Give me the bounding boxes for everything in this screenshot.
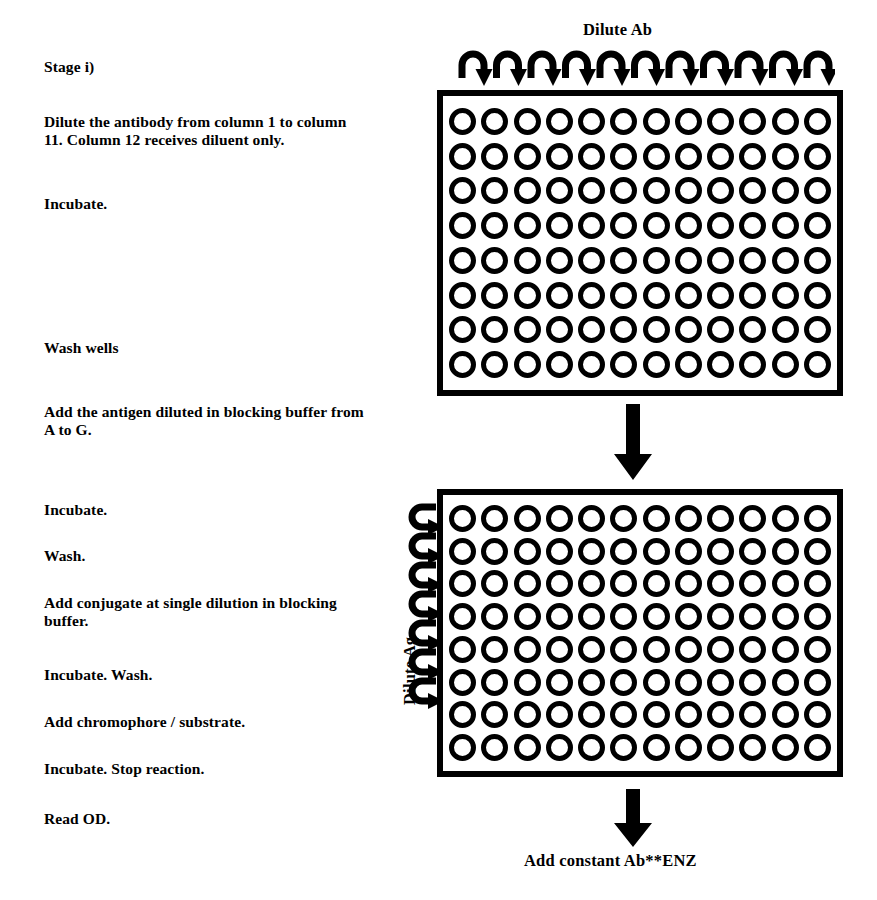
microplate-bottom-well[interactable] <box>449 538 476 565</box>
microplate-bottom-well[interactable] <box>546 570 573 597</box>
microplate-top-well[interactable] <box>739 212 766 239</box>
microplate-bottom-well[interactable] <box>449 669 476 696</box>
microplate-bottom-well[interactable] <box>481 701 508 728</box>
microplate-top-well[interactable] <box>481 247 508 274</box>
microplate-bottom-well[interactable] <box>739 603 766 630</box>
microplate-top-well[interactable] <box>514 177 541 204</box>
microplate-top-well[interactable] <box>546 316 573 343</box>
microplate-top-well[interactable] <box>481 282 508 309</box>
microplate-bottom-well[interactable] <box>449 603 476 630</box>
microplate-top-well[interactable] <box>707 143 734 170</box>
microplate-top-well[interactable] <box>804 282 831 309</box>
microplate-top-well[interactable] <box>449 282 476 309</box>
microplate-bottom-well[interactable] <box>707 636 734 663</box>
microplate-bottom-well[interactable] <box>675 669 702 696</box>
microplate-top-well[interactable] <box>707 108 734 135</box>
microplate-bottom-well[interactable] <box>546 734 573 761</box>
microplate-top-well[interactable] <box>675 316 702 343</box>
microplate-top-well[interactable] <box>481 351 508 378</box>
microplate-bottom-well[interactable] <box>449 570 476 597</box>
microplate-top-well[interactable] <box>578 143 605 170</box>
microplate-bottom-well[interactable] <box>804 570 831 597</box>
microplate-top-well[interactable] <box>514 143 541 170</box>
microplate-top-well[interactable] <box>546 247 573 274</box>
microplate-bottom-well[interactable] <box>578 669 605 696</box>
microplate-bottom-well[interactable] <box>514 734 541 761</box>
microplate-bottom-well[interactable] <box>514 570 541 597</box>
microplate-top-well[interactable] <box>578 108 605 135</box>
microplate-bottom-well[interactable] <box>610 538 637 565</box>
microplate-top-well[interactable] <box>546 108 573 135</box>
microplate-top-well[interactable] <box>610 351 637 378</box>
microplate-top-well[interactable] <box>449 108 476 135</box>
microplate-bottom-well[interactable] <box>804 603 831 630</box>
microplate-bottom-well[interactable] <box>514 636 541 663</box>
microplate-top-well[interactable] <box>449 316 476 343</box>
microplate-bottom-well[interactable] <box>546 538 573 565</box>
microplate-top-well[interactable] <box>675 177 702 204</box>
microplate-bottom-well[interactable] <box>707 603 734 630</box>
microplate-bottom-well[interactable] <box>739 505 766 532</box>
microplate-bottom-well[interactable] <box>675 505 702 532</box>
microplate-top-well[interactable] <box>514 282 541 309</box>
microplate-bottom-well[interactable] <box>772 734 799 761</box>
microplate-bottom-well[interactable] <box>707 570 734 597</box>
microplate-bottom-well[interactable] <box>481 603 508 630</box>
microplate-top-well[interactable] <box>707 212 734 239</box>
microplate-top-well[interactable] <box>739 247 766 274</box>
microplate-top-well[interactable] <box>514 212 541 239</box>
microplate-bottom-well[interactable] <box>739 734 766 761</box>
microplate-top-well[interactable] <box>643 351 670 378</box>
microplate-bottom-well[interactable] <box>804 734 831 761</box>
microplate-bottom-well[interactable] <box>578 603 605 630</box>
microplate-bottom-well[interactable] <box>546 603 573 630</box>
microplate-top-well[interactable] <box>707 316 734 343</box>
microplate-top-well[interactable] <box>707 177 734 204</box>
microplate-bottom-well[interactable] <box>804 505 831 532</box>
microplate-top-well[interactable] <box>804 177 831 204</box>
microplate-bottom-well[interactable] <box>643 603 670 630</box>
microplate-bottom-well[interactable] <box>514 603 541 630</box>
microplate-top-well[interactable] <box>578 212 605 239</box>
microplate-top-well[interactable] <box>643 212 670 239</box>
microplate-bottom-well[interactable] <box>610 570 637 597</box>
microplate-bottom-well[interactable] <box>739 701 766 728</box>
microplate-top-well[interactable] <box>578 282 605 309</box>
microplate-top-well[interactable] <box>772 143 799 170</box>
microplate-bottom-well[interactable] <box>546 636 573 663</box>
microplate-bottom-well[interactable] <box>804 538 831 565</box>
microplate-top-well[interactable] <box>514 247 541 274</box>
microplate-top-well[interactable] <box>804 247 831 274</box>
microplate-top-well[interactable] <box>772 351 799 378</box>
microplate-bottom-well[interactable] <box>481 505 508 532</box>
microplate-bottom-well[interactable] <box>675 734 702 761</box>
microplate-bottom-well[interactable] <box>610 636 637 663</box>
microplate-top-well[interactable] <box>804 108 831 135</box>
microplate-bottom-well[interactable] <box>707 538 734 565</box>
microplate-bottom-well[interactable] <box>675 603 702 630</box>
microplate-bottom-well[interactable] <box>675 636 702 663</box>
microplate-top-well[interactable] <box>449 177 476 204</box>
microplate-top-well[interactable] <box>449 247 476 274</box>
microplate-bottom-well[interactable] <box>772 636 799 663</box>
microplate-bottom-well[interactable] <box>514 701 541 728</box>
microplate-bottom-well[interactable] <box>578 538 605 565</box>
microplate-top-well[interactable] <box>675 351 702 378</box>
microplate-bottom-well[interactable] <box>804 701 831 728</box>
microplate-bottom-well[interactable] <box>772 603 799 630</box>
microplate-bottom-well[interactable] <box>481 570 508 597</box>
microplate-bottom-well[interactable] <box>772 505 799 532</box>
microplate-top-well[interactable] <box>707 351 734 378</box>
microplate-top-well[interactable] <box>546 282 573 309</box>
microplate-top-well[interactable] <box>610 247 637 274</box>
microplate-bottom-well[interactable] <box>643 505 670 532</box>
microplate-bottom-well[interactable] <box>578 505 605 532</box>
microplate-bottom-well[interactable] <box>481 734 508 761</box>
microplate-bottom-well[interactable] <box>610 505 637 532</box>
microplate-bottom-well[interactable] <box>514 538 541 565</box>
microplate-top-well[interactable] <box>804 351 831 378</box>
microplate-bottom-well[interactable] <box>481 669 508 696</box>
microplate-top-well[interactable] <box>610 212 637 239</box>
microplate-top-well[interactable] <box>546 143 573 170</box>
microplate-top-well[interactable] <box>546 177 573 204</box>
